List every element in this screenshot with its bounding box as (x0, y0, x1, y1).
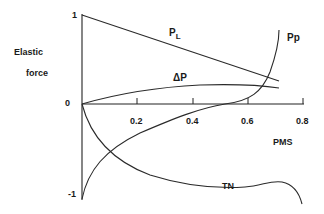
series-label-delta-p: ΔP (173, 72, 187, 83)
x-axis-label: PMS (273, 137, 293, 147)
curve-delta-p (82, 85, 279, 104)
y-tick-label-neg1: -1 (68, 189, 76, 199)
x-tick-label-0.8: 0.8 (296, 116, 309, 126)
y-tick-label-0: 0 (65, 98, 70, 108)
x-tick-label-0.6: 0.6 (241, 116, 254, 126)
series-label-pl-main: P (169, 27, 176, 38)
y-axis-label-line1: Elastic (14, 47, 43, 57)
series-label-pl: PL (169, 27, 181, 41)
y-tick-label-1: 1 (72, 10, 77, 20)
curve-pp (82, 30, 279, 199)
series-label-tn: TN (222, 181, 234, 191)
series-label-pp: Pp (287, 32, 300, 43)
x-tick-label-0.4: 0.4 (186, 116, 199, 126)
x-tick-label-0.2: 0.2 (130, 116, 143, 126)
series-label-pl-sub: L (176, 32, 181, 41)
y-axis-label-line2: force (26, 68, 48, 78)
chart-plot-area (0, 0, 324, 214)
